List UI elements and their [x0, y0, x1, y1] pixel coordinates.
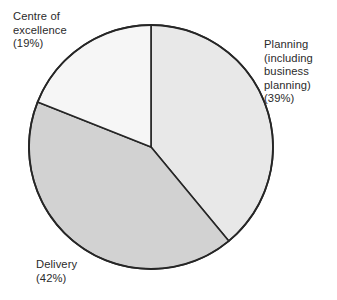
pie-slices: [29, 25, 273, 269]
pie-chart-figure: Centre of excellence (19%) Planning (inc…: [0, 0, 337, 300]
pie-label-centre-of-excellence: Centre of excellence (19%): [13, 10, 113, 51]
pie-label-planning: Planning (including business planning) (…: [264, 38, 337, 106]
pie-label-delivery: Delivery (42%): [36, 258, 132, 285]
